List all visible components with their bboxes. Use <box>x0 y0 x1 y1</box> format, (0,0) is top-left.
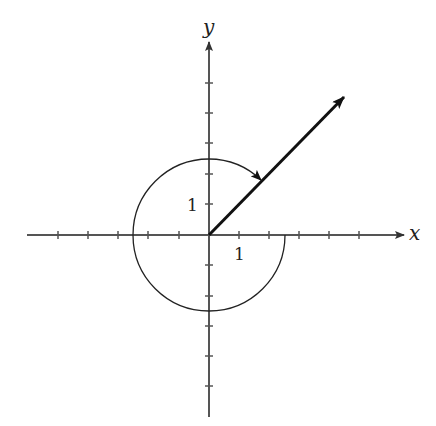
coordinate-diagram: y x 1 1 <box>0 0 436 426</box>
terminal-ray <box>209 97 344 235</box>
y-unit-label: 1 <box>187 195 198 215</box>
x-axis-label: x <box>409 221 420 245</box>
x-unit-label: 1 <box>234 244 245 264</box>
y-axis-label: y <box>202 15 215 39</box>
